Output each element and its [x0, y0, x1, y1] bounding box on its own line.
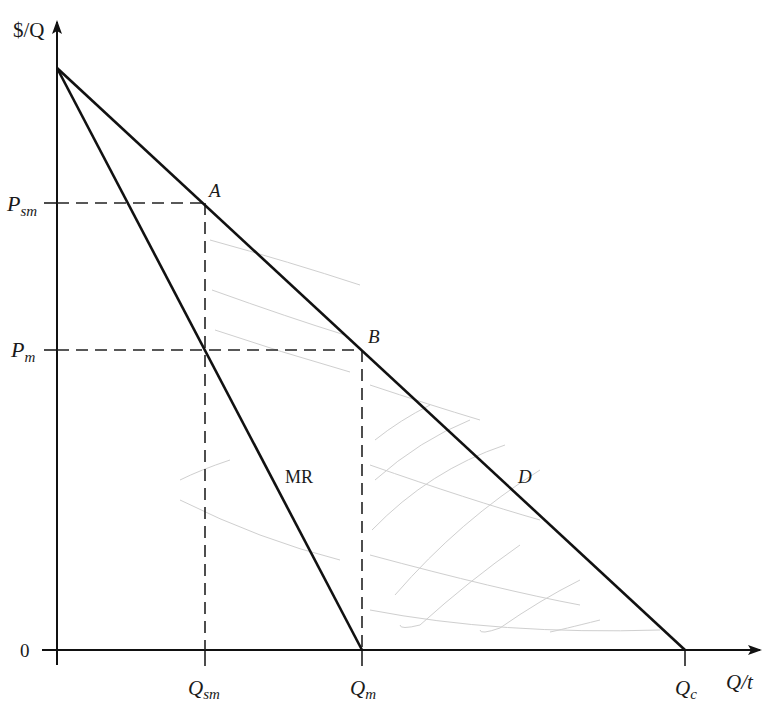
price-label-pm: Pm	[10, 337, 35, 365]
point-a-label: A	[207, 180, 221, 201]
point-b-label: B	[368, 326, 380, 347]
origin-label: 0	[20, 640, 30, 661]
quantity-label-qc: Qc	[675, 676, 697, 702]
hatch-marks	[180, 240, 660, 632]
demand-curve-label: D	[517, 466, 532, 487]
demand-curve	[57, 68, 685, 650]
mr-curve	[57, 68, 362, 650]
quantity-label-qsm: Qsm	[188, 676, 220, 702]
y-axis-label: $/Q	[13, 18, 45, 42]
guide-lines	[57, 203, 362, 650]
mr-curve-label: MR	[285, 467, 313, 487]
quantity-label-qm: Qm	[350, 676, 376, 702]
diagram-canvas: $/Q Q/t 0 Psm Pm Qsm Qm Qc A B MR D	[0, 0, 772, 707]
price-label-psm: Psm	[6, 191, 37, 219]
x-axis-label: Q/t	[726, 670, 754, 694]
